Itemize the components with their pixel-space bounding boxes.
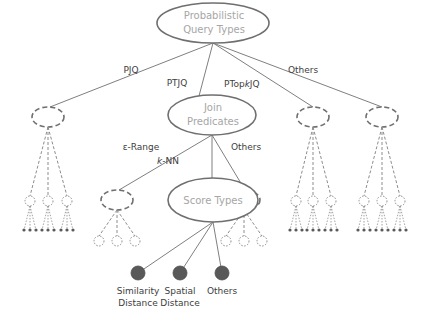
leaf-label-line1: Others bbox=[207, 286, 238, 296]
leaf-label-line1: Spatial bbox=[165, 286, 196, 296]
edge-ptjq bbox=[199, 43, 213, 96]
query-type-tree-diagram: Probabilistic Query Types PJQ PTJQ PTopk… bbox=[0, 0, 427, 320]
edge-similarity-distance bbox=[138, 222, 213, 273]
edge-label-ptopkjq-prefix: PTop bbox=[224, 79, 245, 89]
edge-label-others-join: Others bbox=[231, 142, 262, 152]
collapsed-subtree-epsilon-range bbox=[94, 190, 140, 246]
edge-label-knn: k-NN bbox=[157, 156, 179, 166]
score-types-label: Score Types bbox=[183, 195, 242, 206]
leaf-similarity-distance: Similarity Distance bbox=[117, 266, 160, 308]
edge-label-others-root: Others bbox=[288, 65, 319, 75]
edge-label-ptopkjq: PTopkJQ bbox=[224, 79, 260, 89]
edge-label-ptopkjq-suffix: JQ bbox=[249, 79, 260, 89]
collapsed-subtree-ptopkjq bbox=[288, 107, 338, 232]
root-label-line1: Probabilistic bbox=[184, 10, 244, 21]
join-label-line1: Join bbox=[203, 102, 222, 113]
leaf-label-line2: Distance bbox=[118, 298, 158, 308]
collapsed-subtree-pjq bbox=[22, 107, 74, 232]
leaf-label-line2: Distance bbox=[160, 298, 200, 308]
leaf-others: Others bbox=[207, 266, 238, 296]
join-predicates-node: Join Predicates bbox=[168, 95, 256, 135]
root-node: Probabilistic Query Types bbox=[157, 3, 269, 43]
edge-label-ptjq: PTJQ bbox=[167, 78, 188, 88]
edge-others-score bbox=[213, 222, 222, 273]
edge-label-epsilon-range: ε-Range bbox=[123, 142, 160, 152]
collapsed-subtree-others bbox=[356, 107, 407, 232]
root-label-line2: Query Types bbox=[183, 24, 245, 35]
edge-label-knn-suffix: -NN bbox=[162, 156, 179, 166]
join-label-line2: Predicates bbox=[187, 116, 239, 127]
leaf-spatial-distance: Spatial Distance bbox=[160, 266, 200, 308]
edge-spatial-distance bbox=[180, 222, 213, 273]
score-edges bbox=[138, 222, 222, 273]
score-types-node: Score Types bbox=[168, 178, 258, 222]
edge-label-pjq: PJQ bbox=[123, 65, 138, 75]
leaf-label-line1: Similarity bbox=[117, 286, 160, 296]
